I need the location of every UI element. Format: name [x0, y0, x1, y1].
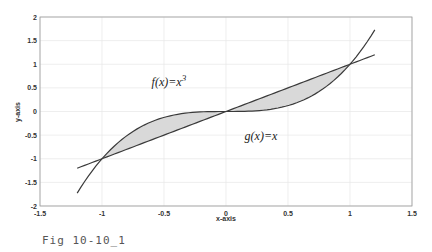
x-tick: -0.5	[158, 210, 170, 217]
y-tick: 2	[33, 14, 37, 21]
y-tick: 1.5	[27, 37, 37, 44]
y-tick-labels: 21.510.50-0.5-1-1.5-2	[25, 14, 37, 210]
x-tick: 1	[348, 210, 352, 217]
x-tick: 1.5	[407, 210, 417, 217]
y-axis-label: y-axis	[14, 102, 22, 122]
y-tick: -1	[31, 155, 37, 162]
annotation: f(x)=x3	[152, 73, 187, 89]
x-tick: 0.5	[283, 210, 293, 217]
x-tick: -1	[99, 210, 105, 217]
function-chart: -1.5-1-0.500.511.5 21.510.50-0.5-1-1.5-2…	[0, 0, 432, 252]
y-tick: 0.5	[27, 84, 37, 91]
y-tick: -0.5	[25, 132, 37, 139]
y-tick: -1.5	[25, 179, 37, 186]
x-tick: -1.5	[34, 210, 46, 217]
y-tick: -2	[31, 203, 37, 210]
y-tick: 0	[33, 108, 37, 115]
figure-caption: Fig 10-10_1	[42, 234, 126, 247]
y-tick: 1	[33, 61, 37, 68]
x-axis-label: x-axis	[216, 215, 236, 222]
annotation: g(x)=x	[245, 129, 278, 143]
